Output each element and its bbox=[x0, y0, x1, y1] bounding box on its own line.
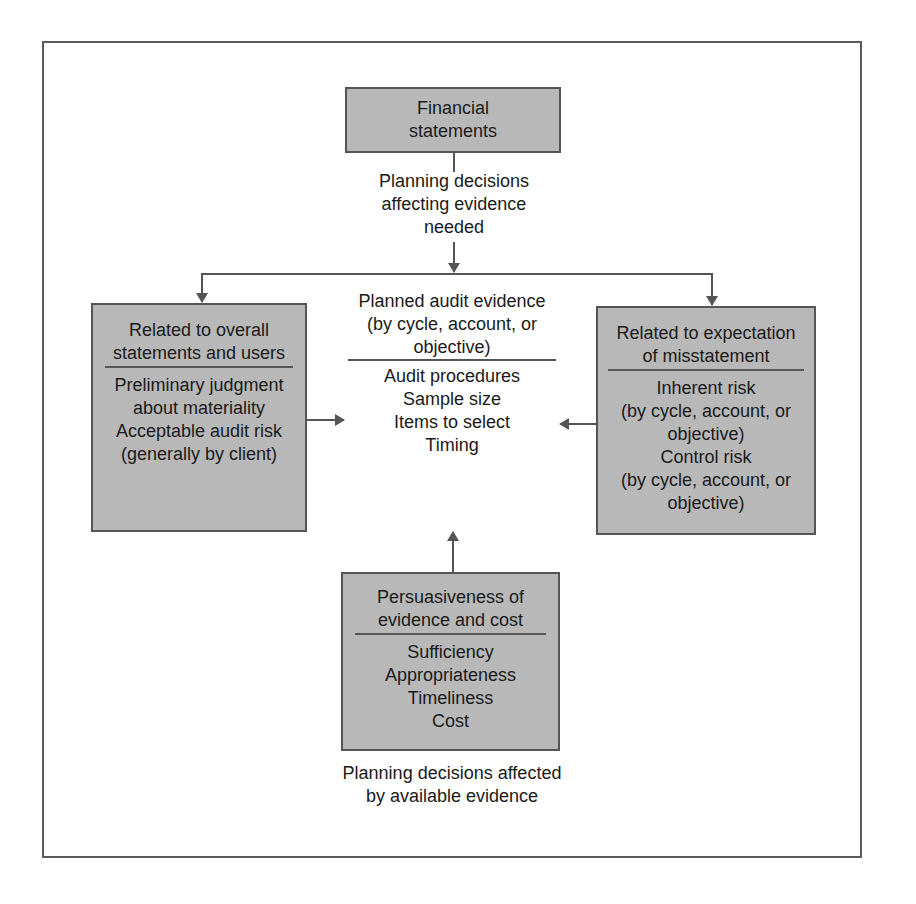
header-line: (by cycle, account, or bbox=[348, 313, 556, 336]
center-item: Timing bbox=[344, 434, 560, 457]
header-line: of misstatement bbox=[608, 345, 804, 368]
planning-decisions-needed-label: Planning decisions affecting evidence ne… bbox=[340, 170, 568, 239]
financial-statements-box: Financial statements bbox=[345, 87, 561, 153]
center-item: Items to select bbox=[344, 411, 560, 434]
center-header: Planned audit evidence (by cycle, accoun… bbox=[348, 290, 556, 361]
center-item: Sample size bbox=[344, 388, 560, 411]
label-line: Planning decisions bbox=[340, 170, 568, 193]
header-line: evidence and cost bbox=[355, 609, 546, 632]
header-line: Related to expectation bbox=[608, 322, 804, 345]
label-line: affecting evidence bbox=[340, 193, 568, 216]
box-item: objective) bbox=[598, 492, 814, 515]
box-item: Sufficiency bbox=[343, 641, 558, 664]
box-item: objective) bbox=[598, 423, 814, 446]
header-line: Related to overall bbox=[105, 319, 293, 342]
label-line: needed bbox=[340, 216, 568, 239]
box-item: Control risk bbox=[598, 446, 814, 469]
box-item: Preliminary judgment bbox=[93, 374, 305, 397]
box-item: (by cycle, account, or bbox=[598, 400, 814, 423]
planning-decisions-affected-label: Planning decisions affected by available… bbox=[310, 762, 594, 808]
header-line: Persuasiveness of bbox=[355, 586, 546, 609]
box-label: statements bbox=[347, 120, 559, 143]
label-line: by available evidence bbox=[310, 785, 594, 808]
box-item: about materiality bbox=[93, 397, 305, 420]
persuasiveness-evidence-cost-box: Persuasiveness of evidence and cost Suff… bbox=[341, 572, 560, 751]
header-line: Planned audit evidence bbox=[348, 290, 556, 313]
box-item: Inherent risk bbox=[598, 377, 814, 400]
expectation-of-misstatement-box: Related to expectation of misstatement I… bbox=[596, 306, 816, 535]
box-item: (generally by client) bbox=[93, 443, 305, 466]
header-line: objective) bbox=[348, 336, 556, 359]
box-header: Related to expectation of misstatement bbox=[608, 322, 804, 371]
box-item: (by cycle, account, or bbox=[598, 469, 814, 492]
header-line: statements and users bbox=[105, 342, 293, 365]
overall-statements-users-box: Related to overall statements and users … bbox=[91, 303, 307, 532]
box-item: Appropriateness bbox=[343, 664, 558, 687]
box-item: Timeliness bbox=[343, 687, 558, 710]
box-item: Cost bbox=[343, 710, 558, 733]
box-header: Persuasiveness of evidence and cost bbox=[355, 586, 546, 635]
box-label: Financial bbox=[347, 97, 559, 120]
label-line: Planning decisions affected bbox=[310, 762, 594, 785]
center-item: Audit procedures bbox=[344, 365, 560, 388]
planned-audit-evidence: Planned audit evidence (by cycle, accoun… bbox=[344, 290, 560, 457]
box-item: Acceptable audit risk bbox=[93, 420, 305, 443]
box-header: Related to overall statements and users bbox=[105, 319, 293, 368]
